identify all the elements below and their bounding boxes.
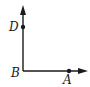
point-d — [21, 25, 25, 29]
label-a: A — [62, 73, 72, 87]
diagram-canvas: D B A — [0, 0, 90, 87]
label-b: B — [10, 66, 20, 80]
label-d: D — [8, 20, 19, 34]
arrowhead-right-icon — [78, 68, 88, 74]
arrowhead-up-icon — [20, 5, 26, 15]
